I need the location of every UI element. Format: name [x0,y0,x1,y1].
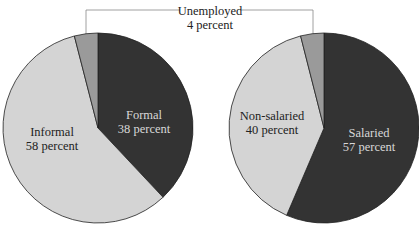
label-salaried: Salaried [349,126,391,140]
label-informal: Informal [30,125,74,139]
label-salaried-value: 57 percent [343,140,396,154]
callout-name: Unemployed [178,4,243,18]
label-non-salaried: Non-salaried [240,109,305,123]
label-formal: Formal [126,108,163,122]
label-informal-value: 58 percent [26,139,79,153]
pie-charts: Unemployed 4 percent Formal 38 percent I… [0,0,419,239]
label-non-salaried-value: 40 percent [246,123,299,137]
label-formal-value: 38 percent [118,122,171,136]
callout-value: 4 percent [187,18,234,32]
